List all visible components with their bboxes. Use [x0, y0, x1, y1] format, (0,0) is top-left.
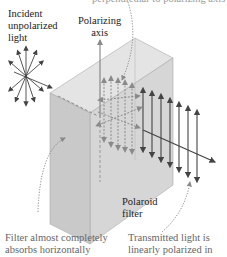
- transmit-caption: Transmitted light is linearly polarized …: [128, 232, 213, 256]
- polaroid-filter-label: Polaroid filter: [122, 196, 158, 220]
- absorb-caption: Filter almost completely absorbs horizon…: [5, 232, 108, 256]
- polarizing-axis-label: Polarizing axis: [78, 15, 121, 39]
- incident-light-label: Incident unpolarized light: [8, 8, 58, 44]
- unpolarized-light-icon: [10, 48, 52, 104]
